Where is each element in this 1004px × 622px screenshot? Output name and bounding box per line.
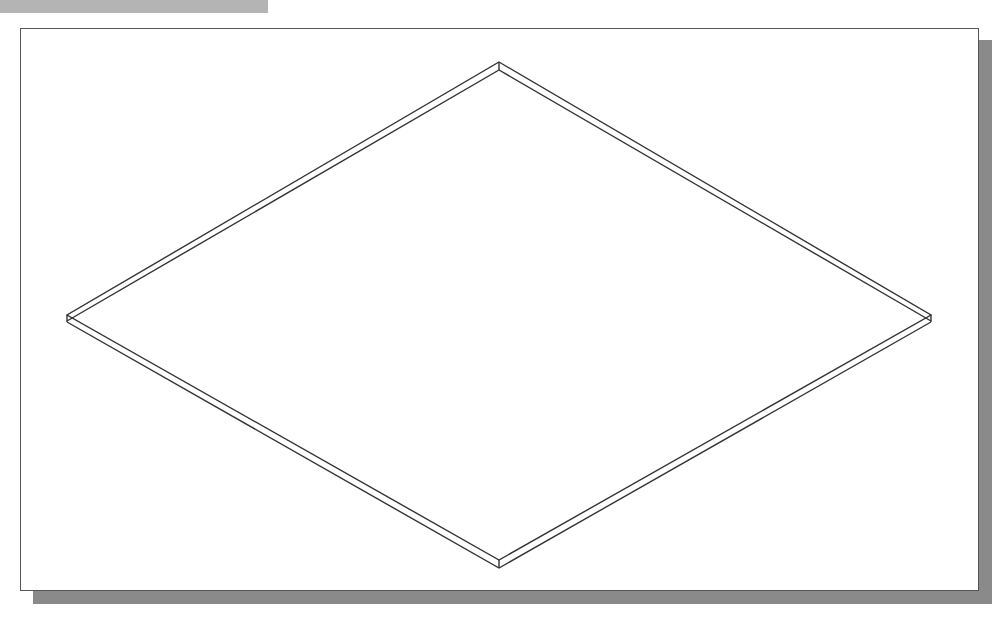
plate-top-face: [67, 62, 931, 560]
isometric-plate-drawing: [0, 0, 1004, 622]
plate-upper-inner-edges: [67, 70, 931, 321]
plate-lower-edges: [67, 322, 931, 568]
